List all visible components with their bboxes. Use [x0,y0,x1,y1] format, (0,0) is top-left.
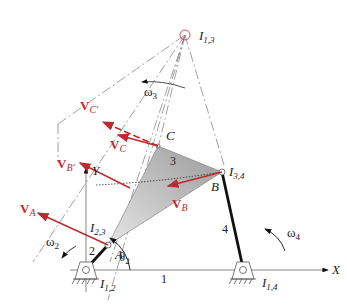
omega2-arrow [62,246,76,258]
label-x-axis: X [331,262,341,277]
label-i34: I3,4 [228,164,245,181]
label-omega2: ω2 [46,234,59,251]
label-link-3: 3 [170,154,176,168]
label-link-2: 2 [89,244,95,258]
label-b: B [211,179,219,194]
label-vcp: VC' [80,98,99,115]
ground-support-left [72,262,99,284]
ground-support-right [229,262,256,284]
label-vc: VC [110,137,126,154]
label-y-axis: Y [92,163,101,178]
link-4 [222,172,243,268]
label-vb: VB [172,196,188,213]
label-i23: I2,3 [89,220,106,237]
label-vbp: VB' [57,156,75,173]
label-i14: I1,4 [261,275,278,292]
label-c: C [166,128,175,143]
label-link-1: 1 [161,272,167,286]
omega4-arrow [265,229,285,251]
label-link-4: 4 [222,222,228,236]
label-theta2: θ2 [119,249,130,266]
label-omega3: ω3 [144,84,158,101]
mechanism-diagram: I1,3 I2,3 I3,4 I1,2 I1,4 A B C 3 2 4 1 ω… [0,0,347,306]
diagram-canvas: I1,3 I2,3 I3,4 I1,2 I1,4 A B C 3 2 4 1 ω… [0,0,347,306]
label-i13: I1,3 [198,28,215,45]
label-i12: I1,2 [99,276,116,293]
label-omega4: ω4 [287,225,301,242]
label-va: VA [20,201,36,218]
coupler-link-3 [108,146,222,245]
